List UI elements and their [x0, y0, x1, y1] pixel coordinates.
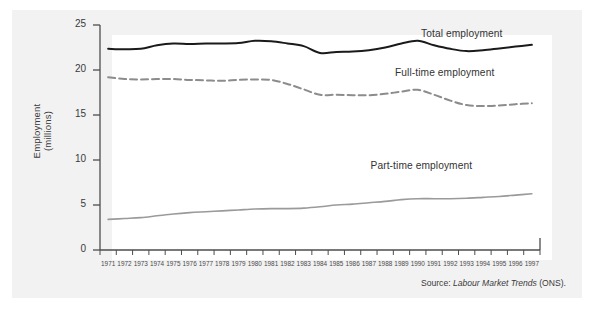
x-tick-label: 1992	[443, 260, 457, 267]
x-tick-label: 1983	[297, 260, 311, 267]
x-tick-label: 1984	[313, 260, 327, 267]
x-tick-label: 1996	[508, 260, 522, 267]
x-tick-label: 1986	[345, 260, 359, 267]
y-tick-label: 15	[60, 108, 86, 119]
axes-layer	[93, 25, 540, 255]
x-tick-label: 1976	[183, 260, 197, 267]
x-tick-label: 1982	[280, 260, 294, 267]
x-tick-label: 1979	[231, 260, 245, 267]
x-tick-label: 1975	[166, 260, 180, 267]
x-tick-label: 1980	[248, 260, 262, 267]
figure-container: Employment (millions) 0510152025 1971197…	[0, 0, 594, 311]
source-publication: Labour Market Trends	[453, 278, 537, 288]
source-note: Source: Labour Market Trends (ONS).	[421, 278, 566, 288]
x-tick-label: 1989	[394, 260, 408, 267]
series-label: Part-time employment	[371, 160, 473, 171]
x-tick-label: 1973	[134, 260, 148, 267]
y-tick-label: 0	[60, 243, 86, 254]
x-tick-label: 1972	[117, 260, 131, 267]
y-tick-label: 10	[60, 153, 86, 164]
x-tick-label: 1990	[411, 260, 425, 267]
y-tick-label: 25	[60, 18, 86, 29]
series-line	[108, 194, 532, 220]
x-tick-label: 1981	[264, 260, 278, 267]
x-tick-label: 1978	[215, 260, 229, 267]
source-prefix: Source:	[421, 278, 453, 288]
x-tick-label: 1971	[101, 260, 115, 267]
x-tick-label: 1997	[525, 260, 539, 267]
x-tick-label: 1988	[378, 260, 392, 267]
series-label: Full-time employment	[395, 67, 494, 78]
x-tick-label: 1985	[329, 260, 343, 267]
series-line	[108, 77, 532, 106]
x-tick-label: 1977	[199, 260, 213, 267]
x-tick-label: 1974	[150, 260, 164, 267]
source-suffix: (ONS).	[537, 278, 566, 288]
series-line	[108, 41, 532, 54]
y-tick-label: 5	[60, 198, 86, 209]
x-tick-label: 1994	[476, 260, 490, 267]
x-tick-label: 1991	[427, 260, 441, 267]
x-tick-label: 1987	[362, 260, 376, 267]
x-tick-label: 1993	[460, 260, 474, 267]
x-tick-label: 1995	[492, 260, 506, 267]
y-tick-label: 20	[60, 63, 86, 74]
series-label: Total employment	[421, 28, 502, 39]
